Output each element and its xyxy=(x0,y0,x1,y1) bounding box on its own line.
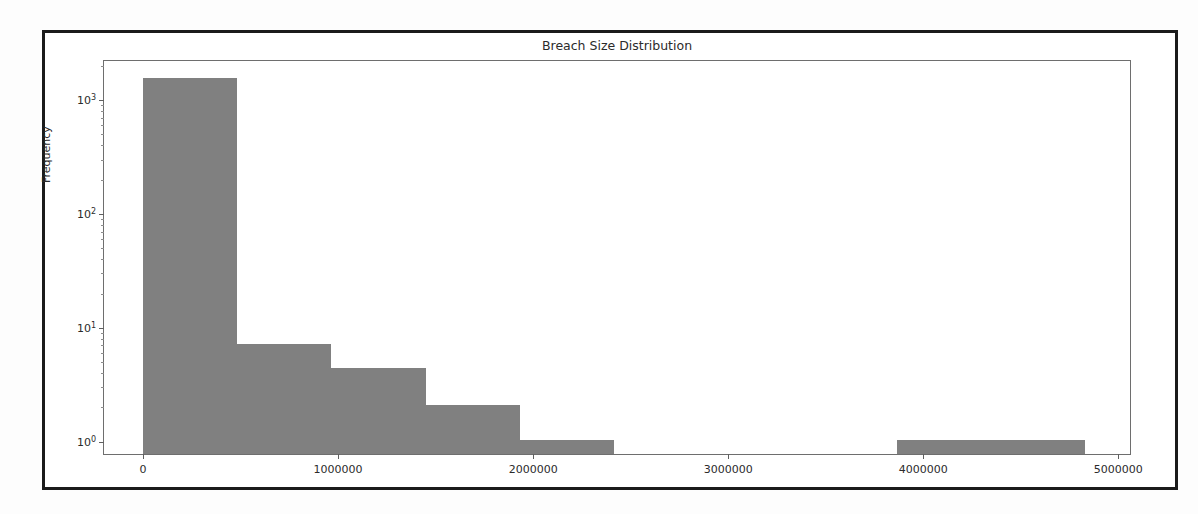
x-axis-tick xyxy=(1118,454,1119,459)
x-axis-tick-label: 2000000 xyxy=(509,463,558,476)
y-axis-minor-tick xyxy=(101,232,104,233)
x-axis-tick xyxy=(338,454,339,459)
y-axis-minor-tick xyxy=(101,125,104,126)
y-axis-minor-tick xyxy=(101,362,104,363)
y-axis-minor-tick xyxy=(101,219,104,220)
chart-title: Breach Size Distribution xyxy=(103,38,1131,53)
y-axis-minor-tick xyxy=(101,248,104,249)
plot-axes: 100101102103 010000002000000300000040000… xyxy=(103,60,1131,455)
x-axis-tick-label: 0 xyxy=(140,463,147,476)
y-axis-tick xyxy=(99,442,104,443)
y-axis-tick xyxy=(99,328,104,329)
plot-area xyxy=(104,61,1130,454)
x-axis-tick xyxy=(533,454,534,459)
x-axis-tick-label: 4000000 xyxy=(899,463,948,476)
y-axis-minor-tick xyxy=(101,180,104,181)
x-axis-tick-label: 5000000 xyxy=(1094,463,1143,476)
y-axis-label: Frequency xyxy=(40,126,53,183)
x-axis-tick-label: 1000000 xyxy=(314,463,363,476)
y-axis-tick xyxy=(99,100,104,101)
y-axis-minor-tick xyxy=(101,333,104,334)
histogram-bar xyxy=(237,344,331,455)
y-axis-minor-tick xyxy=(101,118,104,119)
figure-frame: Breach Size Distribution Frequency 10010… xyxy=(42,30,1178,490)
y-axis-tick-label: 103 xyxy=(77,93,96,108)
y-axis-minor-tick xyxy=(101,345,104,346)
y-axis-minor-tick xyxy=(101,105,104,106)
histogram-bar xyxy=(426,405,520,454)
histogram-bar xyxy=(991,440,1085,454)
y-axis-minor-tick xyxy=(101,373,104,374)
y-axis-minor-tick xyxy=(101,160,104,161)
x-axis-tick xyxy=(143,454,144,459)
y-axis-tick-label: 101 xyxy=(77,321,96,336)
y-axis-minor-tick xyxy=(101,134,104,135)
histogram-bar xyxy=(520,440,614,454)
y-axis-minor-tick xyxy=(101,111,104,112)
y-axis-minor-tick xyxy=(101,239,104,240)
y-axis-minor-tick xyxy=(101,407,104,408)
y-axis-minor-tick xyxy=(101,145,104,146)
y-axis-minor-tick xyxy=(101,294,104,295)
screenshot-root: Breach Size Distribution Frequency 10010… xyxy=(0,0,1198,514)
y-axis-minor-tick xyxy=(101,387,104,388)
histogram-bar xyxy=(331,368,425,454)
y-axis-minor-tick xyxy=(101,225,104,226)
x-axis-tick-label: 3000000 xyxy=(704,463,753,476)
y-axis-minor-tick xyxy=(101,353,104,354)
y-axis-minor-tick xyxy=(101,259,104,260)
x-axis-tick xyxy=(923,454,924,459)
histogram-bar xyxy=(143,78,237,454)
y-axis-tick-label: 100 xyxy=(77,434,96,449)
x-axis-tick xyxy=(728,454,729,459)
y-axis-minor-tick xyxy=(101,66,104,67)
histogram-bar xyxy=(897,440,991,454)
y-axis-tick xyxy=(99,214,104,215)
y-axis-minor-tick xyxy=(101,273,104,274)
y-axis-tick-label: 102 xyxy=(77,207,96,222)
y-axis-minor-tick xyxy=(101,339,104,340)
